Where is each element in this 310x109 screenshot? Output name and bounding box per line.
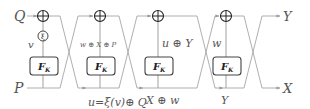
round-3-bottom-label: X ⊕ w	[145, 94, 180, 107]
round-4: FK w	[212, 11, 241, 89]
round-3-label: u ⊕ Y	[162, 37, 194, 50]
round-4-bottom-label: Y	[221, 94, 230, 107]
output-x-label: X	[282, 81, 293, 96]
round-1-v-label: v	[28, 39, 34, 50]
round-1-bottom-label: u=ξ(v)⊕ Q	[88, 96, 147, 109]
input-q-label: Q	[14, 8, 26, 24]
feistel-diagram: Q P FK ξ v FK w ⊕ X ⊕ P u=ξ(v)⊕ Q FK u ⊕…	[0, 0, 310, 109]
round-4-label: w	[212, 37, 222, 50]
xi-symbol: ξ	[41, 33, 45, 41]
round-2: FK w ⊕ X ⊕ P	[80, 11, 117, 89]
round-3: FK u ⊕ Y	[145, 11, 194, 89]
cross-1-top-to-bottom	[49, 16, 86, 88]
round-2-label: w ⊕ X ⊕ P	[80, 41, 117, 49]
cross-1-bottom-to-top	[60, 16, 93, 88]
output-y-label: Y	[283, 9, 293, 24]
input-p-label: P	[13, 80, 24, 96]
round-1: FK ξ v	[28, 11, 58, 89]
